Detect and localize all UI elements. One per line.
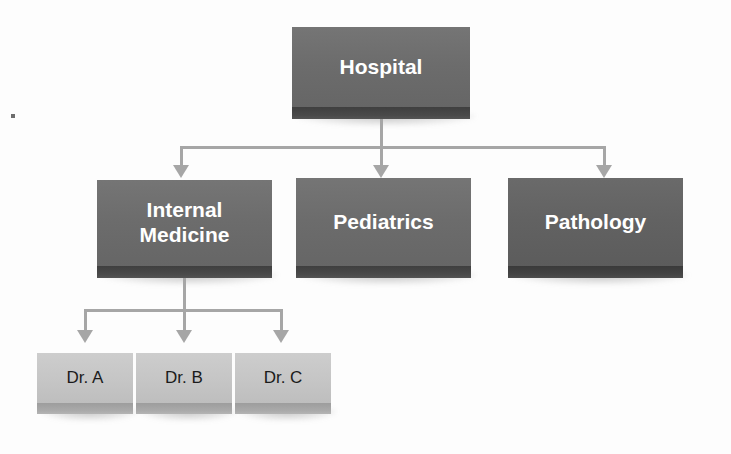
arrowhead-doctor-a	[77, 330, 93, 343]
node-hospital-label: Hospital	[340, 55, 423, 80]
node-internal-medicine-label-line1: Internal	[147, 198, 223, 223]
scan-artifact-speck	[11, 114, 15, 118]
arrowhead-doctor-b	[176, 330, 192, 343]
connector-root-bus	[180, 146, 605, 149]
connector-to-doctor-c	[280, 309, 283, 331]
node-internal-medicine-slab	[97, 266, 272, 278]
node-doctor-c-slab	[235, 403, 331, 414]
connector-to-doctor-b	[183, 309, 186, 331]
node-doctor-b[interactable]: Dr. B	[136, 353, 232, 414]
node-pathology[interactable]: Pathology	[508, 178, 683, 278]
connector-root-to-internal-medicine	[180, 146, 183, 166]
connector-root-to-pediatrics	[380, 146, 383, 166]
node-hospital-face: Hospital	[292, 27, 470, 107]
node-pediatrics-slab	[296, 266, 471, 278]
connector-internal-medicine-stem	[183, 276, 186, 311]
node-doctor-b-label: Dr. B	[165, 368, 203, 388]
arrowhead-pathology	[596, 165, 612, 178]
connector-root-to-pathology	[603, 146, 606, 166]
node-doctor-a-label: Dr. A	[67, 368, 104, 388]
node-doctor-a-slab	[37, 403, 133, 414]
node-internal-medicine-label-line2: Medicine	[140, 223, 230, 248]
node-doctor-c-label: Dr. C	[264, 368, 303, 388]
node-internal-medicine-face: Internal Medicine	[97, 180, 272, 266]
node-hospital-slab	[292, 107, 470, 119]
node-doctor-b-face: Dr. B	[136, 353, 232, 403]
node-pediatrics-face: Pediatrics	[296, 178, 471, 266]
node-doctor-c-face: Dr. C	[235, 353, 331, 403]
node-pediatrics[interactable]: Pediatrics	[296, 178, 471, 278]
node-pathology-face: Pathology	[508, 178, 683, 266]
arrowhead-internal-medicine	[173, 165, 189, 178]
node-pathology-label: Pathology	[545, 210, 647, 235]
node-doctor-a-face: Dr. A	[37, 353, 133, 403]
node-pediatrics-label: Pediatrics	[333, 210, 433, 235]
node-internal-medicine[interactable]: Internal Medicine	[97, 180, 272, 278]
connector-to-doctor-a	[84, 309, 87, 331]
arrowhead-pediatrics	[373, 165, 389, 178]
node-pathology-slab	[508, 266, 683, 278]
node-hospital[interactable]: Hospital	[292, 27, 470, 119]
node-doctor-c[interactable]: Dr. C	[235, 353, 331, 414]
org-chart-canvas: Hospital Internal Medicine Pediatrics Pa…	[0, 0, 731, 454]
connector-root-stem	[380, 115, 383, 149]
node-doctor-b-slab	[136, 403, 232, 414]
arrowhead-doctor-c	[273, 330, 289, 343]
node-doctor-a[interactable]: Dr. A	[37, 353, 133, 414]
